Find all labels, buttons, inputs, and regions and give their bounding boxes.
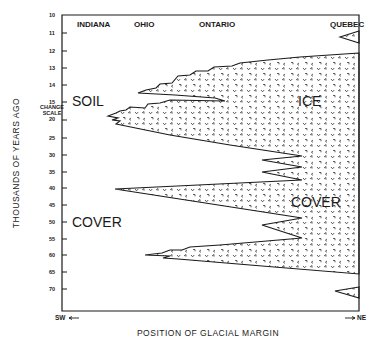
- ice-label: ICE: [298, 93, 321, 109]
- y-tick-label: 60: [49, 252, 55, 258]
- y-tick-label: 12: [49, 48, 55, 54]
- ice-sheet-area: [108, 53, 359, 274]
- ice-tongue-quebec-11k: [340, 31, 359, 43]
- direction-ne-label: NE: [357, 314, 367, 321]
- change-scale-note-line2: SCALE: [43, 110, 62, 116]
- y-tick-label: 20: [49, 116, 55, 122]
- glacial-margin-diagram: 1011121314152025303540455055606570 INDIA…: [0, 0, 376, 342]
- y-tick-label: 11: [49, 30, 55, 36]
- ice-cover-label: COVER: [291, 194, 341, 210]
- y-tick-label: 40: [49, 185, 55, 191]
- arrow-left-icon: [69, 317, 79, 320]
- y-tick-label: 55: [49, 236, 55, 242]
- y-tick-label: 35: [49, 169, 55, 175]
- soil-cover-label: COVER: [72, 214, 122, 230]
- direction-sw-label: SW: [55, 314, 66, 321]
- region-label-ohio: OHIO: [134, 20, 154, 29]
- region-label-quebec: QUEBEC: [330, 20, 364, 29]
- y-tick-label: 45: [49, 202, 55, 208]
- ice-tongue-quebec-70k: [335, 287, 359, 298]
- y-axis-title: THOUSANDS OF YEARS AGO: [11, 98, 21, 228]
- y-tick-label: 70: [49, 286, 55, 292]
- region-label-indiana: INDIANA: [77, 20, 111, 29]
- y-tick-label: 30: [49, 152, 55, 158]
- y-tick-label: 13: [49, 65, 55, 71]
- region-label-ontario: ONTARIO: [199, 20, 235, 29]
- soil-label: SOIL: [72, 93, 104, 109]
- arrow-right-icon: [345, 317, 355, 320]
- y-tick-label: 65: [49, 269, 55, 275]
- y-tick-label: 25: [49, 135, 55, 141]
- y-tick-label: 50: [49, 219, 55, 225]
- y-axis-ticks: 1011121314152025303540455055606570: [49, 12, 67, 292]
- y-tick-label: 10: [49, 12, 55, 18]
- y-tick-label: 14: [49, 82, 56, 88]
- x-axis-title: POSITION OF GLACIAL MARGIN: [137, 328, 279, 338]
